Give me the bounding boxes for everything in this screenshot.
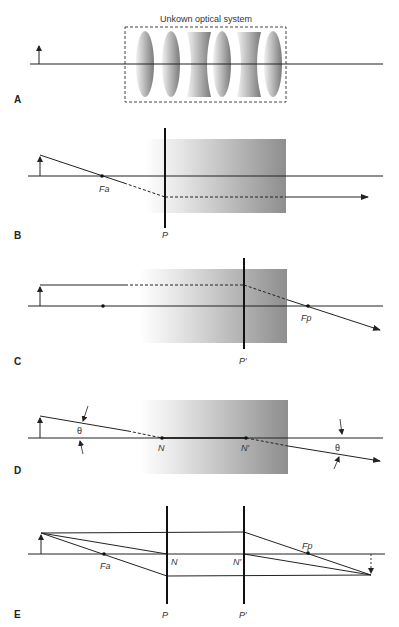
angle-arrow-bottom-right: [334, 457, 339, 469]
ray-emergent: [288, 446, 380, 461]
label-n: N: [171, 557, 178, 567]
panel-c-label: C: [14, 356, 21, 367]
nodal-point-n: [160, 436, 164, 440]
label-p: P: [162, 610, 168, 620]
angle-arrow-top-left: [83, 406, 88, 421]
ray-incident: [40, 155, 124, 183]
focal-point-fp: [306, 304, 310, 308]
label-fp: Fp: [301, 313, 312, 323]
theta-left: θ: [77, 426, 82, 436]
label-n-prime: N′: [233, 557, 241, 567]
panel-e: Fa Fp N N′ P P′ E: [14, 506, 385, 620]
ray-parallel: [41, 532, 244, 533]
label-n: N: [158, 443, 165, 453]
label-n-prime: N′: [241, 443, 249, 453]
ray-from-n-prime: [244, 554, 371, 575]
panel-b-label: B: [14, 230, 21, 241]
focal-point-fa: [102, 552, 106, 556]
label-fp: Fp: [302, 541, 313, 551]
panel-b: Fa P B: [14, 128, 383, 241]
focal-point-fa: [101, 304, 105, 308]
nodal-point-n-prime: [244, 436, 248, 440]
optical-diagram: Unkown optical system A Fa P B: [0, 0, 399, 627]
panel-a-title: Unkown optical system: [160, 14, 252, 24]
label-p-prime: P′: [239, 356, 247, 366]
angle-arrow-bottom-left: [80, 441, 83, 454]
label-p: P: [162, 230, 168, 240]
panel-d-label: D: [14, 465, 21, 476]
ray-to-n: [41, 533, 167, 554]
panel-c: Fp P′ C: [14, 258, 383, 367]
panel-d: θ θ N N′ D: [14, 400, 383, 476]
focal-point-fp: [306, 551, 310, 555]
panel-a: Unkown optical system A: [14, 14, 383, 105]
focal-point-fa: [100, 174, 104, 178]
ray-parallel-out: [167, 575, 371, 576]
panel-e-label: E: [14, 609, 21, 620]
panel-a-label: A: [14, 94, 21, 105]
angle-arrow-top-right: [340, 419, 342, 434]
theta-right: θ: [335, 443, 340, 453]
label-p-prime: P′: [239, 610, 247, 620]
label-fa: Fa: [100, 561, 111, 571]
label-fa: Fa: [99, 184, 110, 194]
